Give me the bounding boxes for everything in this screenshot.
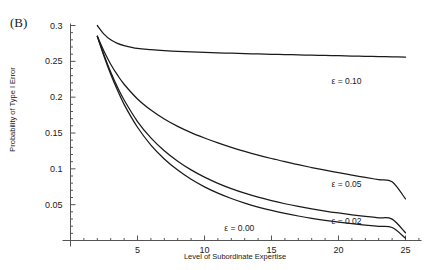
series-label-0: ε = 0.10	[332, 76, 362, 86]
y-tick-label: 0.1	[50, 164, 63, 174]
y-tick-label: 0.3	[50, 21, 63, 31]
x-axis-title: Level of Subordinate Expertise	[135, 252, 335, 261]
x-tick-label: 25	[400, 245, 410, 255]
x-tick-label: 10	[199, 245, 209, 255]
series-label-3: ε = 0.00	[224, 223, 254, 233]
x-tick-label: 15	[266, 245, 276, 255]
y-tick-label: 0.25	[45, 56, 63, 66]
plot-area	[0, 0, 430, 270]
series-curve-2	[97, 36, 405, 233]
x-tick-label: 5	[135, 245, 140, 255]
y-axis-title: Probability of Type I Error	[8, 50, 17, 170]
x-tick-label: 20	[333, 245, 343, 255]
curves-group	[97, 26, 405, 239]
series-curve-0	[97, 26, 405, 58]
series-curve-1	[97, 36, 405, 199]
series-label-2: ε = 0.02	[332, 216, 362, 226]
series-curve-3	[97, 36, 405, 238]
chart-figure: (B) Probability of Type I Error Level of…	[0, 0, 430, 270]
y-tick-label: 0.2	[50, 92, 63, 102]
y-tick-label: 0.05	[45, 200, 63, 210]
series-label-1: ε = 0.05	[332, 179, 362, 189]
y-tick-label: 0.15	[45, 128, 63, 138]
